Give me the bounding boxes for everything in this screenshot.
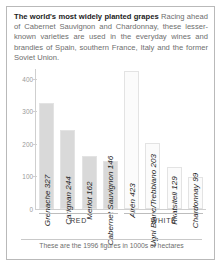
y-axis-tick-label: 200 <box>22 140 33 147</box>
group-rule <box>39 213 118 214</box>
intro-paragraph: The world's most widely planted grapes R… <box>14 12 208 63</box>
y-axis-tick-mark <box>33 144 37 145</box>
y-axis-tick-mark <box>33 79 37 80</box>
footnote-divider <box>21 239 202 240</box>
bar-ugni-blanc-trebbiano[interactable]: Ugni Blanc/Trebbiano 203 <box>145 143 160 209</box>
y-axis-tick-label: 100 <box>22 173 33 180</box>
group-label-red: RED <box>39 213 118 224</box>
bar-grenache[interactable]: Grenache 327 <box>39 103 54 209</box>
y-axis-tick-label: 400 <box>22 75 33 82</box>
group-label-text: RED <box>70 217 87 224</box>
y-axis-tick-mark <box>33 111 37 112</box>
bar-air-n[interactable]: Airén 423 <box>124 71 139 209</box>
bar-cabernet-sauvignon[interactable]: Cabernet Sauvignon 146 <box>103 161 118 209</box>
bar-chardonnay[interactable]: Chardonnay 99 <box>188 177 203 209</box>
page-title: The world's most widely planted grapes <box>14 12 159 21</box>
group-rule <box>124 213 203 214</box>
bar-merlot[interactable]: Merlot 162 <box>82 156 97 209</box>
y-axis-tick-mark <box>33 176 37 177</box>
y-axis-tick-label: 0 <box>29 206 33 213</box>
bar-carignan[interactable]: Carignan 244 <box>60 130 75 209</box>
footnote: These are the 1996 figures in 1000s of h… <box>14 242 209 249</box>
group-label-white: WHITE <box>124 213 203 224</box>
group-label-text: WHITE <box>151 217 177 224</box>
infographic-frame: The world's most widely planted grapes R… <box>6 6 215 260</box>
plot-area: 4003002001000Grenache 327Carignan 244Mer… <box>36 69 206 209</box>
x-axis-line <box>35 209 206 210</box>
bar-rkatsiteli[interactable]: Rkatsiteli 129 <box>167 167 182 209</box>
bar-chart: 4003002001000Grenache 327Carignan 244Mer… <box>14 65 209 233</box>
bar-label: Cabernet Sauvignon 146 <box>106 156 115 246</box>
y-axis-tick-label: 300 <box>22 108 33 115</box>
group-label-row: REDWHITE <box>36 213 206 229</box>
bar-label: Ugni Blanc/Trebbiano 203 <box>148 154 157 247</box>
